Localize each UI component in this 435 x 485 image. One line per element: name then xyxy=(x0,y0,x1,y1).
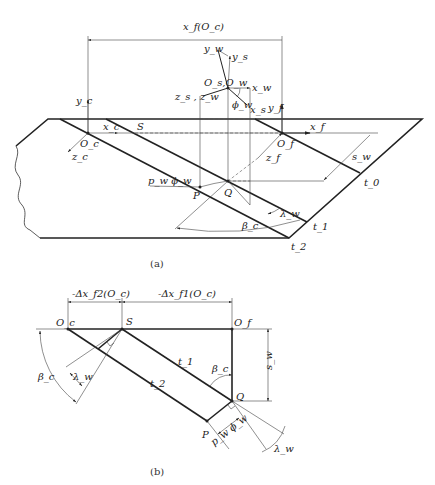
q-beta-line xyxy=(175,181,228,229)
label-t1: t_1 xyxy=(313,221,328,233)
label-zs-zw: z_s , z_w xyxy=(174,91,219,103)
beta-arc-left xyxy=(40,331,76,402)
lambda-arc xyxy=(268,208,280,214)
label-of: O_f xyxy=(277,138,296,150)
label-oc: O_c xyxy=(80,138,99,150)
figure-a: x_f(O_c) y_w y_s O_s,O_w x_w z_s , z_w ϕ… xyxy=(15,21,422,269)
label-beta-c-right: β_c xyxy=(211,363,229,375)
label-t2: t_2 xyxy=(291,241,306,253)
label-os-ow: O_s,O_w xyxy=(204,77,248,89)
point-p xyxy=(206,420,209,423)
label-beta-c: β_c xyxy=(241,220,259,232)
figure-b: -Δx_f2(O_c) -Δx_f1(O_c) O_c S O_f t_1 t_… xyxy=(36,288,294,477)
phi-w-arc xyxy=(237,88,240,97)
label-sw: s_w xyxy=(352,151,371,163)
label-xf-oc: x_f(O_c) xyxy=(183,21,224,33)
label-beta-c-left: β_c xyxy=(37,371,55,383)
label-q: Q xyxy=(224,187,232,198)
label-t0: t_0 xyxy=(364,177,380,189)
label-ys: y_s xyxy=(231,51,248,63)
point-s xyxy=(121,328,124,331)
point-q xyxy=(231,400,234,403)
label-yw: y_w xyxy=(203,43,224,55)
label-of: O_f xyxy=(234,317,253,329)
beta-arc xyxy=(177,220,300,232)
diagram-canvas: x_f(O_c) y_w y_s O_s,O_w x_w z_s , z_w ϕ… xyxy=(0,0,435,485)
label-zc: z_c xyxy=(71,151,88,163)
point-p xyxy=(199,186,202,189)
caption-a: (a) xyxy=(150,258,164,269)
point-of xyxy=(281,132,284,135)
label-xc: x_c xyxy=(103,121,120,133)
label-xs: x_s xyxy=(250,104,266,116)
label-dxf2: -Δx_f2(O_c) xyxy=(72,288,130,300)
line-t1 xyxy=(106,119,307,222)
label-lambda-w-right: λ_w xyxy=(273,443,294,455)
label-t1: t_1 xyxy=(178,356,193,368)
label-s: S xyxy=(126,316,133,327)
point-oc xyxy=(87,132,90,135)
label-p: P xyxy=(192,190,200,201)
point-q xyxy=(227,180,230,183)
label-oc: O_c xyxy=(56,317,75,329)
right-angle-mark-right xyxy=(228,405,235,409)
line-p-q xyxy=(207,401,232,421)
pw-phiw-leader xyxy=(150,186,200,187)
left-line-beta xyxy=(76,329,122,404)
left-line-lambda xyxy=(66,329,122,367)
zf-dashed xyxy=(228,158,258,181)
label-dxf1: -Δx_f1(O_c) xyxy=(158,288,216,300)
caption-b: (b) xyxy=(150,466,164,477)
label-lambda-w-left: λ_w xyxy=(72,371,93,383)
label-xf: x_f xyxy=(310,121,327,133)
beta-arc-right xyxy=(210,375,232,386)
label-pw-phiw: p_w ϕ_w xyxy=(148,175,192,187)
label-pw-phiw: p_w ϕ_w xyxy=(208,412,250,449)
label-zf: z_f xyxy=(265,152,282,164)
label-t2: t_2 xyxy=(150,378,165,390)
label-q: Q xyxy=(236,391,244,402)
label-yf: y_f xyxy=(267,102,285,114)
label-xw: x_w xyxy=(252,82,272,94)
plate-break-edge xyxy=(15,146,40,238)
label-lambda-w: λ_w xyxy=(279,208,300,220)
label-s: S xyxy=(137,121,144,132)
plate-outline xyxy=(16,119,422,238)
label-yc: y_c xyxy=(75,95,93,107)
label-sw: s_w xyxy=(263,351,275,370)
line-t0 xyxy=(255,119,360,173)
